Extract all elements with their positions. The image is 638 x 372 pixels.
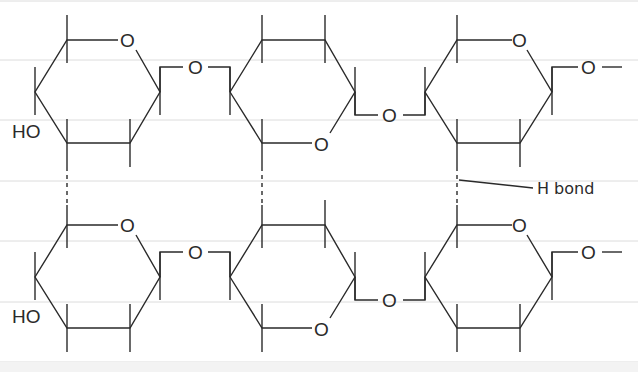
cellulose-structure-svg: O HO O O O: [0, 0, 638, 372]
h-bond-label: H bond: [537, 179, 594, 198]
ring-oxygen: O: [512, 215, 527, 236]
hydroxyl-group: HO: [12, 306, 41, 327]
ring-oxygen: O: [314, 319, 329, 340]
hydroxyl-group: HO: [12, 121, 41, 142]
lower-chain: O HO O O O: [12, 200, 622, 352]
glycosidic-oxygen: O: [188, 57, 203, 78]
ring-oxygen: O: [512, 30, 527, 51]
lower-ring-1: O HO: [12, 205, 160, 352]
upper-chain: O HO O O O: [12, 15, 622, 167]
terminal-oxygen: O: [581, 57, 596, 78]
lower-ring-3: O: [425, 205, 552, 352]
upper-ring-3: O: [425, 15, 552, 167]
diagram-canvas: O HO O O O: [0, 0, 638, 372]
lower-ring-2: O: [230, 200, 355, 352]
terminal-oxygen: O: [581, 242, 596, 263]
hydrogen-bonds: H bond: [67, 167, 594, 205]
upper-ring-2: O: [230, 15, 355, 167]
upper-ring-1: O HO: [12, 15, 160, 167]
glycosidic-oxygen: O: [382, 290, 397, 311]
ring-oxygen: O: [314, 134, 329, 155]
ring-oxygen: O: [120, 30, 135, 51]
glycosidic-oxygen: O: [382, 105, 397, 126]
glycosidic-oxygen: O: [188, 242, 203, 263]
ring-oxygen: O: [120, 215, 135, 236]
page-bottom-strip: [0, 362, 638, 372]
